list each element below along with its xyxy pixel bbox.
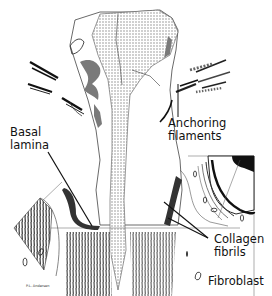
artist-signature: P.L. Andersen — [26, 284, 49, 288]
label-filaments: filaments — [168, 130, 226, 143]
label-collagen-fibrils: Collagen fibrils — [214, 233, 264, 259]
fibroblast-section — [180, 156, 254, 281]
label-basal-lamina: Basal lamina — [10, 126, 49, 152]
label-fibrils: fibrils — [214, 246, 264, 259]
label-lamina: lamina — [10, 139, 49, 152]
label-fibroblast: Fibroblast — [208, 275, 264, 288]
label-anchoring-filaments: Anchoring filaments — [168, 117, 226, 143]
left-anchoring-filaments — [28, 62, 84, 116]
